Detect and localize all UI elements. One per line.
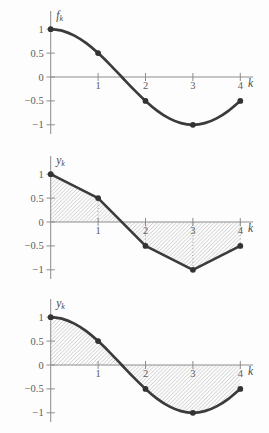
y-tick-label: −1 [33,264,44,275]
y-tick-label: 0 [38,360,43,371]
plot-fk-smooth: 10.50−0.5−11234fkk [25,9,254,134]
x-tick-label: 4 [238,225,244,236]
sample-point [48,26,54,32]
sample-point [48,314,54,320]
y-tick-label: −1 [33,119,44,130]
sample-point [48,171,54,177]
y-tick-label: −0.5 [25,240,44,251]
y-tick-label: 1 [38,169,43,180]
y-axis-label: yk [55,154,65,168]
y-tick-label: 0 [38,72,43,83]
x-tick-label: 3 [190,225,195,236]
x-tick-label: 2 [143,225,148,236]
y-axis-label: fk [56,9,63,23]
sample-point [190,122,196,128]
x-tick-label: 2 [143,368,148,379]
sampled-cosine-figure: 10.50−0.5−11234fkk 10.50−0.5−11234ykk 10… [0,0,269,433]
y-tick-label: 0 [38,217,43,228]
y-tick-label: −0.5 [25,95,44,106]
x-tick-label: 1 [95,368,100,379]
y-tick-label: −1 [33,407,44,418]
sample-point [143,98,149,104]
x-tick-label: 2 [143,80,148,91]
sample-point [143,386,149,392]
sample-point [237,386,243,392]
plot-yk-linear-hatched: 10.50−0.5−11234ykk [25,154,254,279]
x-tick-label: 1 [95,80,100,91]
figure-page: 10.50−0.5−11234fkk 10.50−0.5−11234ykk 10… [0,0,269,433]
x-tick-label: 3 [190,368,195,379]
sample-point [190,410,196,416]
sample-point [143,243,149,249]
y-tick-label: 0.5 [31,48,44,59]
sample-point [95,195,101,201]
x-axis-label: k [248,365,254,377]
x-tick-label: 4 [238,368,244,379]
y-tick-label: 1 [38,24,43,35]
sample-point [237,98,243,104]
sample-point [190,267,196,273]
sample-point [95,338,101,344]
plot-yk-smooth-hatched: 10.50−0.5−11234ykk [25,297,254,422]
x-axis-label: k [248,77,254,89]
y-tick-label: −0.5 [25,383,44,394]
y-axis-label: yk [55,297,65,311]
sample-point [237,243,243,249]
y-tick-label: 0.5 [31,193,44,204]
sample-point [95,50,101,56]
x-tick-label: 4 [238,80,244,91]
x-tick-label: 1 [95,225,100,236]
x-tick-label: 3 [190,80,195,91]
y-tick-label: 0.5 [31,336,44,347]
x-axis-label: k [248,222,254,234]
y-tick-label: 1 [38,312,43,323]
